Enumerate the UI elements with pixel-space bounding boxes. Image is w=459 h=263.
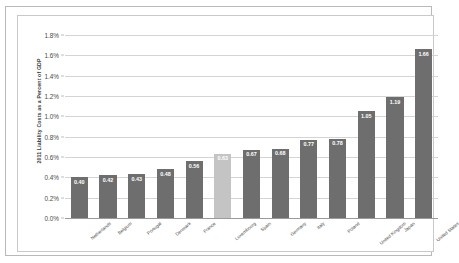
bar[interactable]: 0.77 xyxy=(300,140,317,218)
y-axis-tick-label: 0.2% xyxy=(25,194,59,201)
y-axis-tick-mark xyxy=(61,177,64,178)
x-axis-category-label: Italy xyxy=(316,221,326,230)
x-axis-category-label: Poland xyxy=(346,221,360,234)
y-axis-tick-label: 0.6% xyxy=(25,154,59,161)
y-axis-tick-label: 0.4% xyxy=(25,174,59,181)
y-axis-tick-mark xyxy=(61,197,64,198)
bar-value-label: 0.42 xyxy=(99,177,116,183)
y-axis-tick-label: 0.8% xyxy=(25,133,59,140)
bar-slot: 0.40 xyxy=(71,35,88,218)
y-axis-tick-mark xyxy=(61,96,64,97)
bar-value-label: 0.63 xyxy=(214,155,231,161)
y-axis-tick-mark xyxy=(61,136,64,137)
bar-slot: 0.68 xyxy=(272,35,289,218)
bar[interactable]: 0.68 xyxy=(272,149,289,218)
bar-slot: 0.42 xyxy=(99,35,116,218)
bar[interactable]: 0.40 xyxy=(71,177,88,218)
y-axis-tick-label: 1.6% xyxy=(25,52,59,59)
bar[interactable]: 0.43 xyxy=(128,174,145,218)
bar-value-label: 1.19 xyxy=(386,99,403,105)
x-axis-category-label: Denmark xyxy=(175,221,192,237)
bar[interactable]: 0.56 xyxy=(186,161,203,218)
bar-slot: 0.77 xyxy=(300,35,317,218)
bar-value-label: 1.05 xyxy=(358,113,375,119)
x-axis-category-label: Netherlands xyxy=(90,221,112,241)
x-axis-category-label: Spain xyxy=(259,221,271,232)
bar-slot: 0.78 xyxy=(329,35,346,218)
y-axis-tick-mark xyxy=(61,55,64,56)
bar[interactable]: 0.67 xyxy=(243,150,260,218)
bar-value-label: 0.68 xyxy=(272,150,289,156)
x-axis-category-label: Luxembourg xyxy=(234,221,257,241)
y-axis-tick-mark xyxy=(61,218,64,219)
bar-value-label: 0.48 xyxy=(157,171,174,177)
bar-slot: 0.56 xyxy=(186,35,203,218)
y-axis-tick-label: 1.2% xyxy=(25,93,59,100)
plot-area: 1.8%1.6%1.4%1.2%1.0%0.8%0.6%0.4%0.2%0.0%… xyxy=(65,35,438,218)
x-axis-category-label: France xyxy=(202,221,216,234)
x-axis-category-labels: NetherlandsBelgiumPortugalDenmarkFranceL… xyxy=(65,219,438,261)
bar[interactable]: 1.05 xyxy=(358,111,375,218)
x-axis-category-label: Germany xyxy=(290,221,308,237)
y-axis-tick-mark xyxy=(61,35,64,36)
x-axis-category-label: United States xyxy=(435,221,459,243)
bar-slot: 0.48 xyxy=(157,35,174,218)
bar[interactable]: 0.63 xyxy=(214,154,231,218)
chart-plot-border: 2011 Liability Costs as a Percent of GDP… xyxy=(17,15,434,252)
y-axis-tick-label: 1.8% xyxy=(25,32,59,39)
bar-value-label: 0.77 xyxy=(300,141,317,147)
bar-slot: 0.63 xyxy=(214,35,231,218)
bar-value-label: 0.78 xyxy=(329,140,346,146)
bar-slot: 1.05 xyxy=(358,35,375,218)
bar-slot: 0.43 xyxy=(128,35,145,218)
image-frame: 2011 Liability Costs as a Percent of GDP… xyxy=(5,6,432,256)
y-axis-tick-label: 0.0% xyxy=(25,215,59,222)
x-axis-category-label: Belgium xyxy=(117,221,133,236)
bar-value-label: 0.43 xyxy=(128,176,145,182)
bar[interactable]: 0.42 xyxy=(99,175,116,218)
bar-slot: 0.67 xyxy=(243,35,260,218)
y-axis-tick-mark xyxy=(61,75,64,76)
bar[interactable]: 0.78 xyxy=(329,139,346,218)
bar-slot: 1.66 xyxy=(415,35,432,218)
bar-slot: 1.19 xyxy=(386,35,403,218)
bar-value-label: 0.67 xyxy=(243,151,260,157)
bar[interactable]: 1.66 xyxy=(415,49,432,218)
x-axis-category-label: Portugal xyxy=(146,221,162,236)
bar-value-label: 1.66 xyxy=(415,51,432,57)
y-axis-tick-mark xyxy=(61,157,64,158)
bar[interactable]: 1.19 xyxy=(386,97,403,218)
bar-value-label: 0.40 xyxy=(71,179,88,185)
y-axis-tick-mark xyxy=(61,116,64,117)
bar-series: 0.400.420.430.480.560.630.670.680.770.78… xyxy=(65,35,438,218)
bar[interactable]: 0.48 xyxy=(157,169,174,218)
y-axis-tick-label: 1.4% xyxy=(25,72,59,79)
bar-value-label: 0.56 xyxy=(186,163,203,169)
x-axis-category-label: United Kingdom xyxy=(379,221,407,246)
y-axis-tick-label: 1.0% xyxy=(25,113,59,120)
